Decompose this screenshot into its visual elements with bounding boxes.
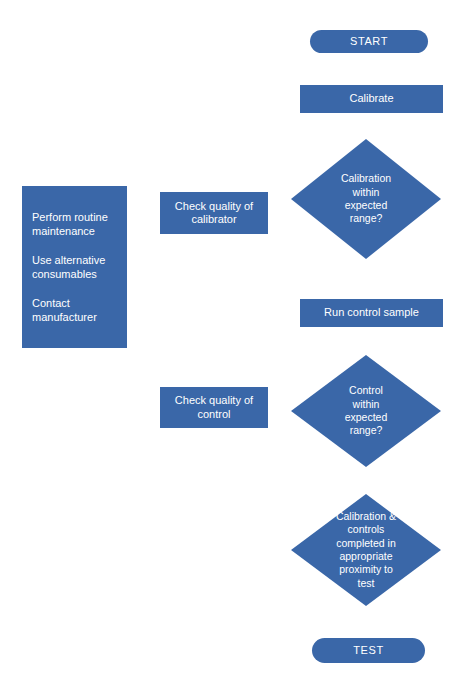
flow-node-calibration-decision[interactable]: Calibration within expected range? (291, 139, 441, 259)
flow-node-run-control-sample-label: Run control sample (300, 306, 443, 319)
flow-node-check-quality-control[interactable]: Check quality of control (160, 387, 268, 428)
flow-node-test[interactable]: TEST (312, 638, 425, 663)
flow-node-proximity-decision[interactable]: Calibration & controls completed in appr… (291, 494, 441, 606)
flowchart-canvas: START Calibrate Calibration within expec… (0, 0, 465, 687)
flow-node-run-control-sample[interactable]: Run control sample (300, 299, 443, 327)
flow-node-start-label: START (310, 35, 428, 48)
flow-node-calibrate[interactable]: Calibrate (300, 85, 443, 113)
flow-node-check-quality-calibrator-label: Check quality of calibrator (160, 200, 268, 227)
actions-panel-item-perform-routine-maintenance: Perform routine maintenance (32, 210, 119, 238)
flow-node-actions-panel[interactable]: Perform routine maintenance Use alternat… (22, 186, 127, 348)
flow-node-calibration-decision-label: Calibration within expected range? (291, 172, 441, 226)
flow-node-check-quality-calibrator[interactable]: Check quality of calibrator (160, 192, 268, 234)
flow-node-check-quality-control-label: Check quality of control (160, 394, 268, 421)
actions-panel-item-use-alternative-consumables: Use alternative consumables (32, 253, 119, 281)
flow-node-start[interactable]: START (310, 30, 428, 53)
flow-node-test-label: TEST (312, 644, 425, 657)
flow-node-calibrate-label: Calibrate (300, 92, 443, 105)
flow-node-control-decision-label: Control within expected range? (291, 384, 441, 438)
actions-panel-item-contact-manufacturer: Contact manufacturer (32, 296, 119, 324)
flow-node-proximity-decision-label: Calibration & controls completed in appr… (291, 510, 441, 591)
flow-node-control-decision[interactable]: Control within expected range? (291, 355, 441, 467)
